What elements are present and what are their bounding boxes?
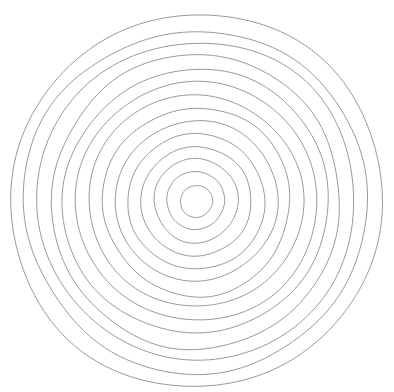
circle-ring-5 (128, 133, 265, 268)
circle-ring-12 (37, 43, 354, 360)
circle-ring-14 (11, 15, 383, 386)
concentric-circles-figure (0, 0, 394, 392)
circle-ring-6 (115, 121, 278, 282)
circle-ring-1 (181, 186, 213, 218)
circle-ring-2 (167, 171, 225, 229)
figure-canvas (0, 0, 394, 392)
circle-ring-4 (141, 147, 251, 257)
circle-ring-9 (75, 81, 317, 320)
circle-ring-8 (89, 95, 304, 306)
